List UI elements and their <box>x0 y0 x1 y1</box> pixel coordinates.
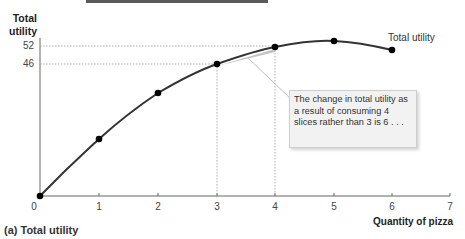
x-axis-label: Quantity of pizza <box>373 216 453 227</box>
x-tick-7: 7 <box>444 201 456 212</box>
x-tick-4: 4 <box>269 201 281 212</box>
x-tick-0: 0 <box>28 201 40 212</box>
figure-caption: (a) Total utility <box>4 224 78 236</box>
series-label: Total utility <box>388 32 435 43</box>
y-tick-46: 46 <box>4 58 34 69</box>
x-tick-1: 1 <box>93 201 105 212</box>
y-axis-label: Total utility <box>5 12 37 38</box>
change-highlight <box>217 49 275 66</box>
x-tick-6: 6 <box>386 201 398 212</box>
y-axis-label-line1: Total <box>5 12 37 25</box>
x-tick-5: 5 <box>328 201 340 212</box>
y-tick-52: 52 <box>4 40 34 51</box>
y-axis-label-line2: utility <box>5 25 37 38</box>
x-tick-3: 3 <box>211 201 223 212</box>
callout-leader-line <box>248 58 292 100</box>
x-tick-2: 2 <box>152 201 164 212</box>
annotation-callout: The change in total utility as a result … <box>289 90 417 148</box>
reference-lines <box>40 46 275 196</box>
